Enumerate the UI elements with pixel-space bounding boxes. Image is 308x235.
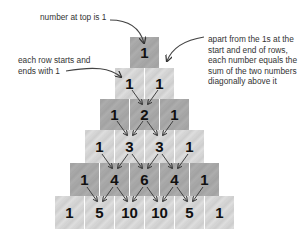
callout-arrow-edges xyxy=(66,68,121,77)
sum-arrows xyxy=(87,90,203,201)
arrows-layer xyxy=(0,0,308,235)
callout-arrow-top xyxy=(110,20,144,43)
callout-arrow-sum xyxy=(167,37,204,61)
